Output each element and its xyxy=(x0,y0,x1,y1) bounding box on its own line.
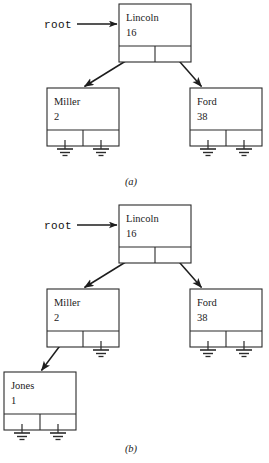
node-value-label: 16 xyxy=(126,27,137,38)
node-name-label: Miller xyxy=(54,297,81,308)
node-value-label: 38 xyxy=(197,111,208,122)
panel-caption: (a) xyxy=(125,176,138,188)
node-name-label: Miller xyxy=(54,96,81,107)
node-value-label: 38 xyxy=(197,312,208,323)
node-miller-b: Miller2 xyxy=(47,289,119,357)
node-value-label: 16 xyxy=(126,228,137,239)
panel-caption: (b) xyxy=(125,443,138,455)
node-name-label: Ford xyxy=(197,297,218,308)
node-ford-b: Ford38 xyxy=(190,289,262,357)
root-pointer-label: root xyxy=(44,19,72,31)
node-value-label: 2 xyxy=(54,312,59,323)
node-value-label: 2 xyxy=(54,111,59,122)
node-name-label: Jones xyxy=(11,380,34,391)
root-pointer-label: root xyxy=(44,220,72,232)
node-value-label: 1 xyxy=(11,395,16,406)
node-miller-a: Miller2 xyxy=(47,88,119,156)
node-ford-a: Ford38 xyxy=(190,88,262,156)
node-name-label: Ford xyxy=(197,96,218,107)
figure-layers: rootLincoln16Miller2Ford38(a)rootLincoln… xyxy=(4,4,262,455)
panel-a: rootLincoln16Miller2Ford38(a) xyxy=(44,4,262,188)
node-lincoln-a: Lincoln16 xyxy=(119,4,191,62)
node-name-label: Lincoln xyxy=(126,12,159,23)
node-jones-b: Jones1 xyxy=(4,372,76,440)
tree-diagram-figure: rootLincoln16Miller2Ford38(a)rootLincoln… xyxy=(0,0,269,463)
node-name-label: Lincoln xyxy=(126,213,159,224)
node-lincoln-b: Lincoln16 xyxy=(119,205,191,263)
panel-b: rootLincoln16Miller2Ford38Jones1(b) xyxy=(4,205,262,455)
